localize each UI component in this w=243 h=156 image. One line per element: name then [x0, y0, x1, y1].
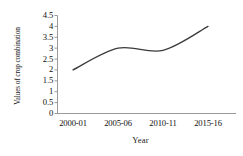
line-chart: Values of crop combination 00.511.522.53…: [0, 0, 243, 156]
y-axis: [55, 16, 58, 114]
series-line-crop-combination: [73, 26, 208, 70]
data-series: [73, 26, 208, 70]
x-axis-title: Year: [91, 135, 191, 146]
chart-canvas: [0, 0, 243, 156]
x-axis-tick-label: 2015-16: [178, 118, 238, 129]
x-axis-tick-labels: 2000-012005-062010-112015-16: [0, 118, 243, 130]
